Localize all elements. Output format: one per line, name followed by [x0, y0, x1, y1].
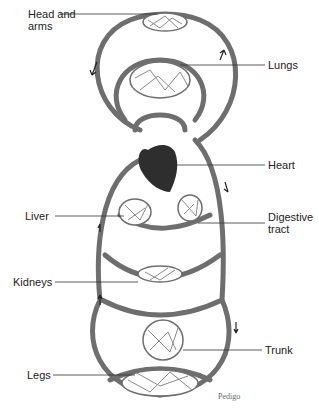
label-kidneys: Kidneys — [13, 276, 52, 288]
capillary-trunk — [143, 320, 183, 360]
label-head-line2: arms — [28, 20, 76, 32]
label-lungs: Lungs — [268, 59, 298, 71]
capillary-lungs — [130, 62, 190, 98]
label-legs: Legs — [27, 369, 51, 381]
label-liver: Liver — [25, 210, 49, 222]
heart-icon — [139, 145, 178, 192]
label-digestive-tract: Digestive tract — [268, 211, 313, 235]
capillary-liver — [119, 199, 151, 225]
label-digestive-line1: Digestive — [268, 211, 313, 223]
artist-credit: Pedigo — [218, 392, 240, 401]
label-head-and-arms: Head and arms — [28, 8, 76, 32]
label-trunk: Trunk — [265, 344, 293, 356]
label-head-line1: Head and — [28, 8, 76, 20]
label-heart: Heart — [268, 159, 295, 171]
label-digestive-line2: tract — [268, 223, 313, 235]
